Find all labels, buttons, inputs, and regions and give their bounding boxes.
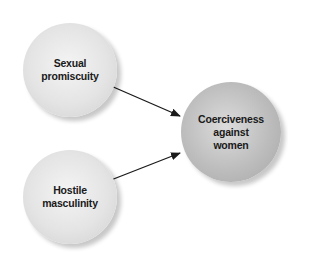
label-line: Hostile <box>42 184 98 197</box>
node-coerciveness-against-women: Coerciveness against women <box>181 82 281 182</box>
node-label: Coerciveness against women <box>198 113 264 152</box>
label-line: Coerciveness <box>198 113 264 126</box>
label-line: women <box>198 139 264 152</box>
label-line: promiscuity <box>41 70 98 83</box>
node-hostile-masculinity: Hostile masculinity <box>23 150 117 244</box>
label-line: Sexual <box>41 57 98 70</box>
label-line: against <box>198 126 264 139</box>
node-label: Sexual promiscuity <box>41 57 98 83</box>
node-sexual-promiscuity: Sexual promiscuity <box>23 23 117 117</box>
arrow-hostile-masculinity-to-coerciveness <box>111 153 180 180</box>
label-line: masculinity <box>42 197 98 210</box>
node-label: Hostile masculinity <box>42 184 98 210</box>
arrow-sexual-promiscuity-to-coerciveness <box>111 86 180 116</box>
